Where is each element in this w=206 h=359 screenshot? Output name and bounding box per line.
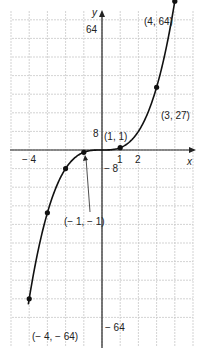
y-axis-arrow-icon bbox=[99, 10, 105, 17]
tick-y-64: 64 bbox=[86, 24, 98, 35]
tick-y-8: 8 bbox=[93, 128, 99, 139]
tick-x-1: 1 bbox=[117, 154, 123, 165]
tick-y-neg64: − 64 bbox=[105, 322, 125, 333]
tick-x-neg4: − 4 bbox=[22, 154, 37, 165]
cubic-curve bbox=[28, 0, 178, 304]
point-label-4-64: (4, 64) bbox=[144, 16, 173, 27]
data-point bbox=[81, 150, 86, 155]
y-axis-label: y bbox=[91, 7, 98, 18]
point-label-neg1-neg1: (− 1, − 1) bbox=[64, 216, 105, 227]
point-label-1-1: (1, 1) bbox=[104, 131, 127, 142]
data-point bbox=[27, 296, 32, 301]
data-point bbox=[45, 210, 50, 215]
cubic-function-graph: x y 64 8 − 8 − 64 − 4 1 2 (4, 64) (3, 27… bbox=[0, 0, 206, 359]
x-axis-label: x bbox=[186, 156, 193, 167]
data-point bbox=[63, 166, 68, 171]
point-label-3-27: (3, 27) bbox=[161, 110, 190, 121]
data-point bbox=[118, 145, 123, 150]
tick-x-2: 2 bbox=[135, 154, 141, 165]
leader-line-neg1-neg1 bbox=[86, 158, 90, 212]
data-point bbox=[172, 0, 177, 4]
point-label-neg4-neg64: (− 4, − 64) bbox=[32, 331, 78, 342]
axes bbox=[10, 10, 196, 348]
x-axis-arrow-icon bbox=[189, 147, 196, 153]
data-point bbox=[154, 85, 159, 90]
